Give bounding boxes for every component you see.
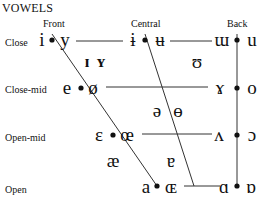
vowel-small-cap-i: ɪ [85,54,90,70]
chart-title: VOWELS [2,2,53,14]
vowel-o-slash: ø [88,78,98,97]
vowel-epsilon: ɛ [95,125,103,144]
row-label-open-mid: Open-mid [5,133,46,143]
vowel-rams-horn: ɤ [216,78,224,97]
vowel-small-cap-y: ʏ [97,54,106,70]
vowel-turned-m: ɯ [215,30,230,49]
vowel-a: a [142,177,150,196]
row-label-close: Close [5,38,28,48]
vowel-script-a: ɑ [219,177,229,196]
row-label-open: Open [5,185,27,195]
vowel-ash: æ [107,151,120,170]
vowel-i: i [39,30,44,49]
vowel-e: e [63,78,71,97]
vowel-u: u [247,30,257,49]
vowel-o: o [247,78,257,97]
vowel-schwa: ə [153,101,161,120]
vowel-y: y [60,30,70,49]
vowel-small-cap-oe: ɶ [165,177,177,196]
column-label-front: Front [43,19,65,29]
vowel-oe: œ [120,125,134,144]
vowel-barred-o: ɵ [173,101,183,120]
vowel-turned-v: ʌ [214,125,224,144]
column-label-back: Back [227,19,248,29]
vowel-barred-u: ʉ [155,30,165,49]
vowel-open-o: ɔ [248,125,256,144]
vowel-barred-i: ɨ [130,30,135,49]
vowel-turned-script-a: ɒ [246,177,256,196]
vowel-upsilon: ʊ [192,52,202,71]
column-label-central: Central [131,19,160,29]
vowel-turned-a: ɐ [167,151,175,170]
row-label-close-mid: Close-mid [5,85,47,95]
